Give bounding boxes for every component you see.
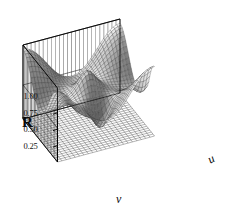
axis-label-v: v xyxy=(116,192,121,207)
ztick-label-1: 1.00 xyxy=(24,91,38,101)
surface-mesh xyxy=(23,23,155,127)
axis-label-R: R xyxy=(22,114,33,131)
ztick-label-4: 0.25 xyxy=(24,141,38,151)
surface-plot-figure: 1.00 0.75 0.50 0.25 R u v xyxy=(0,0,250,216)
